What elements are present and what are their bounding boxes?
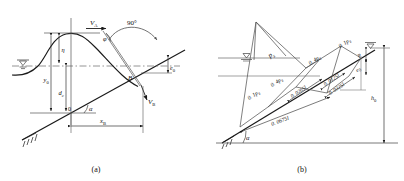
ground-hatching-a [22,133,37,147]
technical-diagram: η y0 dc 0 VA φ 90° B [0,0,404,181]
slope-line-a [22,50,185,140]
label-90deg: 90° [127,19,137,27]
label-VA: VA [90,19,98,28]
label-e0-b: e0 [354,65,362,74]
label-VB: VB [148,98,155,107]
trajectory-chord-2 [106,33,141,85]
label-h0: h0 [371,94,377,103]
slope-line-b [222,50,375,143]
label-origin-0: 0 [68,106,71,112]
angle-90-arc [109,27,157,40]
label-alpha-b: α [246,134,250,141]
caption-b: (b) [297,165,307,174]
label-p01-left: 0. 1ps [246,89,261,102]
label-point-B: B [128,74,133,82]
label-xB: xB [99,117,106,126]
label-p04-left: 0. 4ps [269,76,284,89]
label-alpha-a: α [89,105,93,112]
panel-b: ps 0. 1ps 0. 4ps 0. 4ps 0. 1ps 0. 0265l … [216,22,398,174]
figure-container: η y0 dc 0 VA φ 90° B [0,0,404,181]
panel-a: η y0 dc 0 VA φ 90° B [12,18,185,174]
angle-phi-arc [106,34,111,42]
label-y0: y0 [43,76,50,85]
water-level-symbol-b-right [365,43,376,49]
label-eta: η [62,46,65,53]
angle-alpha-arc-a [84,105,88,113]
dim-00675-line [243,97,330,131]
label-ps: ps [266,50,276,61]
label-dc: dc [59,89,64,98]
trajectory-chord [103,31,140,86]
wave-profile-curve [12,33,138,86]
water-level-symbol-a [17,60,29,69]
vector-VB-line [141,85,147,100]
caption-a: (a) [92,165,101,174]
pressure-distribution-upper [248,22,361,72]
